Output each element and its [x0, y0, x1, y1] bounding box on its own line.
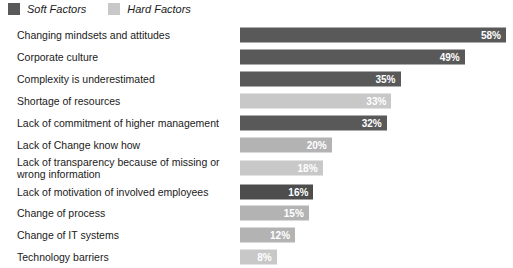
category-label: Corporate culture [17, 46, 237, 67]
chart-row: Technology barriers8% [0, 246, 513, 267]
bar-track: 12% [240, 227, 512, 242]
bar-value-label: 35% [376, 71, 401, 86]
chart-row: Corporate culture49% [0, 46, 513, 67]
chart-row: Lack of commitment of higher management3… [0, 112, 513, 133]
chart-row: Lack of motivation of involved employees… [0, 181, 513, 202]
bar-hard: 15% [240, 205, 309, 220]
bar-soft: 16% [240, 184, 313, 199]
bar-value-label: 15% [284, 205, 309, 220]
category-label: Lack of motivation of involved employees [17, 181, 237, 202]
chart-legend: Soft FactorsHard Factors [8, 2, 191, 16]
legend-label: Soft Factors [27, 3, 86, 15]
bar-value-label: 8% [257, 249, 276, 264]
bar-hard: 18% [240, 161, 323, 176]
bar-value-label: 12% [270, 227, 295, 242]
bar-track: 33% [240, 93, 512, 108]
category-label: Complexity is underestimated [17, 68, 237, 89]
legend-item: Soft Factors [8, 3, 86, 15]
bar-track: 16% [240, 184, 512, 199]
bar-value-label: 18% [298, 161, 323, 176]
bar-value-label: 33% [366, 93, 391, 108]
bar-value-label: 20% [307, 137, 332, 152]
legend-label: Hard Factors [127, 3, 191, 15]
category-label: Shortage of resources [17, 90, 237, 111]
category-label: Lack of transparency because of missing … [17, 155, 237, 181]
bar-track: 58% [240, 27, 512, 42]
category-label: Lack of Change know how [17, 134, 237, 155]
bar-soft: 58% [240, 27, 506, 42]
bar-track: 20% [240, 137, 512, 152]
category-label: Lack of commitment of higher management [17, 112, 237, 133]
legend-item: Hard Factors [108, 3, 191, 15]
legend-swatch-hard-factors [108, 3, 120, 15]
chart-row: Complexity is underestimated35% [0, 68, 513, 89]
bar-soft: 35% [240, 71, 401, 86]
category-label: Change of IT systems [17, 224, 237, 245]
chart-row: Change of IT systems12% [0, 224, 513, 245]
chart-row: Changing mindsets and attitudes58% [0, 24, 513, 45]
chart-row: Change of process15% [0, 202, 513, 223]
bar-track: 8% [240, 249, 512, 264]
chart-row: Lack of transparency because of missing … [0, 155, 513, 181]
bar-value-label: 58% [481, 27, 506, 42]
bar-value-label: 16% [288, 184, 313, 199]
bar-value-label: 32% [362, 115, 387, 130]
bar-track: 18% [240, 161, 512, 176]
bar-track: 35% [240, 71, 512, 86]
bar-hard: 12% [240, 227, 295, 242]
bar-soft: 49% [240, 49, 465, 64]
chart-row: Shortage of resources33% [0, 90, 513, 111]
bar-hard: 20% [240, 137, 332, 152]
bar-soft: 32% [240, 115, 387, 130]
bar-hard: 8% [240, 249, 277, 264]
chart-rows: Changing mindsets and attitudes58%Corpor… [0, 24, 513, 268]
category-label: Technology barriers [17, 246, 237, 267]
bar-track: 15% [240, 205, 512, 220]
bar-track: 49% [240, 49, 512, 64]
category-label: Change of process [17, 202, 237, 223]
bar-hard: 33% [240, 93, 391, 108]
chart-row: Lack of Change know how20% [0, 134, 513, 155]
bar-track: 32% [240, 115, 512, 130]
category-label: Changing mindsets and attitudes [17, 24, 237, 45]
bar-value-label: 49% [440, 49, 465, 64]
legend-swatch-soft-factors [8, 3, 20, 15]
